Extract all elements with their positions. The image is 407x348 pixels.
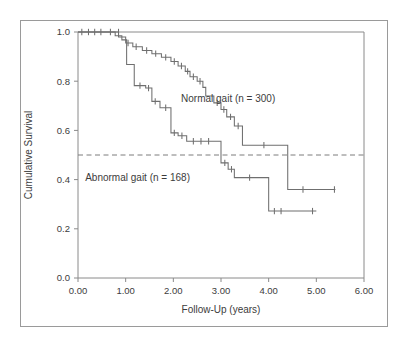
x-axis-tick-label: 4.00	[259, 285, 278, 296]
y-axis-tick-label: 1.0	[57, 26, 70, 37]
y-axis-tick-label: 0.8	[57, 76, 70, 87]
kaplan-meier-chart: 0.001.002.003.004.005.006.000.00.20.40.6…	[0, 0, 407, 348]
axes-group: 0.001.002.003.004.005.006.000.00.20.40.6…	[57, 26, 373, 296]
survival-curves-group	[78, 29, 335, 214]
y-axis-tick-label: 0.2	[57, 223, 70, 234]
survival-curve-abnormal-gait	[78, 32, 316, 211]
x-axis-tick-label: 6.00	[355, 285, 374, 296]
y-axis-tick-label: 0.4	[57, 174, 70, 185]
x-axis-tick-label: 0.00	[69, 285, 88, 296]
x-axis-title: Follow-Up (years)	[182, 304, 261, 315]
figure-container: 0.001.002.003.004.005.006.000.00.20.40.6…	[0, 0, 407, 348]
normal-gait-label: Normal gait (n = 300)	[181, 93, 275, 104]
y-axis-title: Cumulative Survival	[23, 111, 34, 199]
survival-curve-normal-gait	[78, 32, 335, 189]
y-axis-tick-label: 0.0	[57, 272, 70, 283]
x-axis-tick-label: 5.00	[307, 285, 326, 296]
x-axis-tick-label: 3.00	[212, 285, 231, 296]
abnormal-gait-label: Abnormal gait (n = 168)	[85, 172, 190, 183]
x-axis-tick-label: 1.00	[116, 285, 135, 296]
x-axis-tick-label: 2.00	[164, 285, 183, 296]
y-axis-tick-label: 0.6	[57, 125, 70, 136]
